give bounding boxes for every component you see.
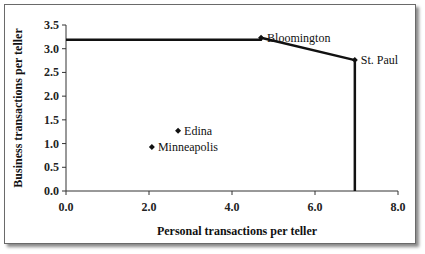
y-tick-label: 0.0 [44,184,59,198]
y-tick-label: 1.0 [44,137,59,151]
x-tick-label: 8.0 [391,200,406,214]
scatter-chart: 0.02.04.06.08.00.00.51.01.52.02.53.03.5 … [0,0,425,254]
x-tick-label: 6.0 [308,200,323,214]
point-label: Minneapolis [158,140,218,154]
point-label: Bloomington [267,31,330,45]
y-tick-label: 3.0 [44,42,59,56]
diamond-marker [352,57,358,63]
axes: 0.02.04.06.08.00.00.51.01.52.02.53.03.5 [44,18,406,214]
x-tick-label: 4.0 [225,200,240,214]
y-axis-title: Business transactions per teller [11,28,25,188]
diamond-marker [175,128,181,134]
point-label: Edina [184,124,213,138]
y-tick-label: 3.5 [44,18,59,32]
y-tick-label: 2.5 [44,65,59,79]
efficient-frontier-line [66,38,355,191]
x-tick-label: 2.0 [142,200,157,214]
y-tick-label: 0.5 [44,160,59,174]
y-tick-label: 2.0 [44,89,59,103]
frontier-polyline [66,38,355,191]
x-tick-label: 0.0 [59,200,74,214]
point-label: St. Paul [361,53,399,67]
data-points: BloomingtonSt. PaulEdinaMinneapolis [149,31,399,154]
diamond-marker [149,144,155,150]
x-axis-title: Personal transactions per teller [157,224,318,238]
y-tick-label: 1.5 [44,113,59,127]
